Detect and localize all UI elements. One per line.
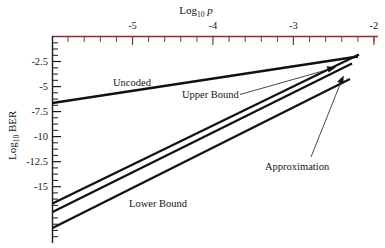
x-tick-label: -4 [209, 20, 218, 31]
y-tick-label: -15 [34, 181, 48, 192]
y-axis-title-main: Log [6, 142, 18, 160]
annotation-upper-bound: Upper Bound [182, 89, 240, 100]
y-tick-label: -5 [39, 81, 48, 92]
annotation-approximation: Approximation [265, 161, 330, 172]
y-tick-label: -7.5 [31, 106, 48, 117]
chart-figure: -5 -4 -3 -2 Log10 p [0, 0, 385, 248]
y-tick-label: -12.5 [26, 156, 48, 167]
y-axis-title-var: BER [6, 110, 18, 132]
annotation-lower-bound: Lower Bound [129, 198, 188, 209]
x-axis-title-main: Log [179, 4, 197, 16]
chart-svg: -5 -4 -3 -2 Log10 p [0, 0, 385, 248]
x-tick-label: -2 [370, 20, 379, 31]
annotation-uncoded: Uncoded [113, 77, 152, 88]
x-tick-label: -3 [289, 20, 298, 31]
x-axis-title-var: p [206, 4, 213, 16]
x-tick-label: -5 [128, 20, 137, 31]
y-tick-label: -2.5 [31, 56, 48, 67]
y-tick-label: -10 [34, 131, 48, 142]
